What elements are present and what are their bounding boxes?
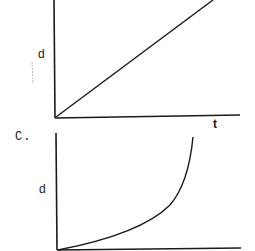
bottom-accelerating-curve	[58, 137, 193, 250]
top-y-axis-label: d	[38, 48, 45, 60]
panel-c-label: C.	[15, 131, 31, 143]
bottom-y-axis-label: d	[39, 183, 46, 195]
top-y-axis	[54, 0, 55, 118]
bottom-y-axis	[56, 133, 57, 250]
scan-artifact	[32, 62, 33, 84]
top-x-axis-label: t	[213, 118, 217, 130]
top-linear-line	[56, 0, 213, 117]
bottom-x-axis	[57, 248, 241, 250]
